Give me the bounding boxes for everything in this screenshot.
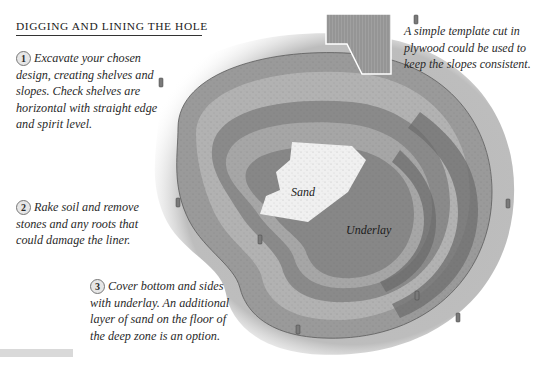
step-number-badge: 2 (16, 200, 31, 215)
step-1: 1Excavate your chosen design, creating s… (16, 50, 166, 133)
step-number-badge: 3 (90, 279, 105, 294)
step-3: 3Cover bottom and sides with underlay. A… (90, 278, 240, 344)
step-text: Excavate your chosen design, creating sh… (16, 51, 157, 131)
step-2: 2Rake soil and remove stones and any roo… (16, 199, 166, 249)
step-text: Rake soil and remove stones and any root… (16, 200, 139, 247)
underlay-label: Underlay (346, 223, 391, 238)
sand-label: Sand (291, 185, 315, 200)
page-edge-bar (0, 349, 73, 357)
step-number-badge: 1 (16, 51, 31, 66)
template-caption: A simple template cut in plywood could b… (404, 23, 535, 73)
step-text: Cover bottom and sides with underlay. An… (90, 279, 229, 343)
